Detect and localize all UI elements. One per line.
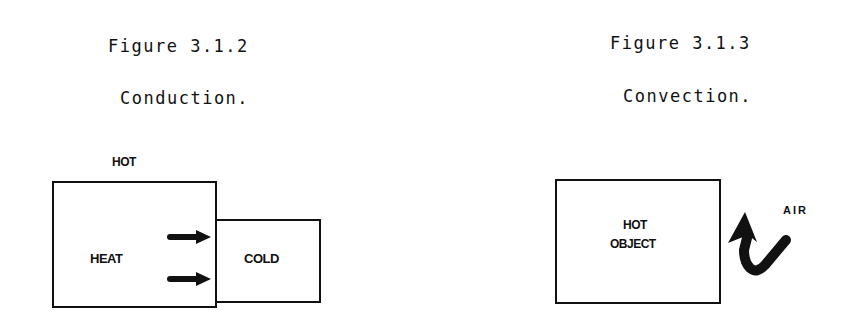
air-flow-arrow-icon: [0, 0, 857, 317]
